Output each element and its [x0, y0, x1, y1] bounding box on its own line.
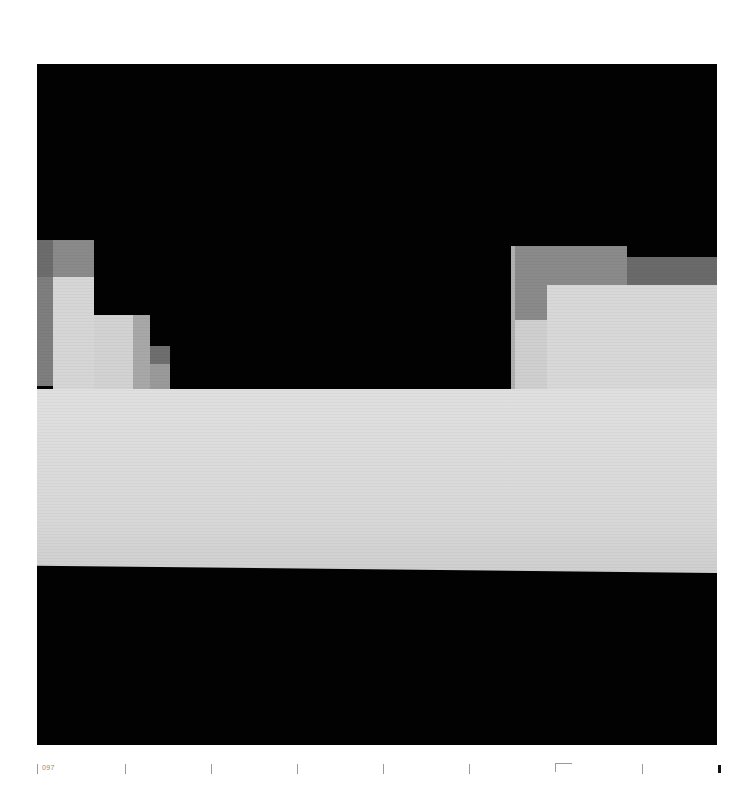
left-bright-column	[53, 277, 94, 389]
page-number: 097	[42, 764, 55, 771]
footer-tick	[125, 764, 126, 774]
end-mark	[718, 765, 721, 773]
left-step-1	[94, 315, 133, 389]
right-bright-block	[547, 285, 717, 389]
left-top-block-light	[53, 240, 94, 277]
right-dark-block	[627, 257, 717, 285]
right-edge-dark	[511, 246, 515, 389]
footer-tick	[383, 764, 384, 774]
footer-tick	[211, 764, 212, 774]
bright-band	[37, 389, 717, 573]
photo-plate	[37, 64, 717, 745]
footer-tick	[642, 764, 643, 774]
left-step-3-dark	[150, 346, 170, 364]
footer-tick	[297, 764, 298, 774]
footer-tick	[469, 764, 470, 774]
corner-mark	[555, 763, 572, 772]
right-lower-left	[511, 320, 547, 389]
footer-tick	[37, 764, 38, 774]
left-step-2	[133, 315, 150, 389]
page-footer: 097	[0, 752, 754, 785]
